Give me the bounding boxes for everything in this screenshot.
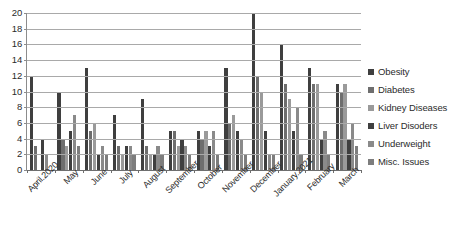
legend-swatch-icon: [368, 123, 374, 129]
legend-item-diabetes[interactable]: Diabetes: [368, 81, 461, 99]
gridline-10: [27, 92, 361, 93]
y-tick-label-2: 2: [17, 150, 22, 160]
legend-swatch-icon: [368, 87, 374, 93]
bar: [343, 84, 346, 170]
x-label-cell: October: [193, 172, 221, 234]
legend-label: Misc. Issues: [378, 157, 429, 167]
bar: [125, 146, 128, 170]
x-label-cell: September: [165, 172, 193, 234]
gridline-16: [27, 44, 361, 45]
bar: [169, 131, 172, 170]
y-tick-label-14: 14: [12, 55, 22, 65]
bar: [77, 146, 80, 170]
legend-label: Underweight: [378, 139, 430, 149]
y-tick-mark-2: [24, 154, 27, 155]
x-axis-tick-labels: April.2020MayJuneJulyAugustSeptemberOcto…: [26, 172, 360, 234]
x-label-cell: January.2021: [276, 172, 304, 234]
x-label-cell: July: [109, 172, 137, 234]
y-tick-label-18: 18: [12, 24, 22, 34]
bar: [129, 146, 132, 170]
legend-item-misc-issues[interactable]: Misc. Issues: [368, 153, 461, 171]
legend-item-liver-disoders[interactable]: Liver Disoders: [368, 117, 461, 135]
y-tick-mark-8: [24, 107, 27, 108]
plot-wrapper: 20181614121086420 April.2020MayJuneJulyA…: [0, 0, 368, 239]
y-tick-mark-16: [24, 44, 27, 45]
bar: [177, 146, 180, 170]
gridline-8: [27, 107, 361, 108]
gridline-4: [27, 139, 361, 140]
x-label-cell: November: [221, 172, 249, 234]
bar: [228, 123, 231, 170]
bar: [141, 99, 144, 170]
bar: [145, 146, 148, 170]
y-tick-mark-18: [24, 29, 27, 30]
chart-legend: ObesityDiabetesKidney DiseasesLiver Diso…: [368, 63, 461, 181]
legend-swatch-icon: [368, 69, 374, 75]
bar: [57, 92, 60, 171]
gridline-20: [27, 13, 361, 14]
bar: [149, 154, 152, 170]
gridline-6: [27, 123, 361, 124]
bar: [340, 92, 343, 171]
y-tick-mark-6: [24, 123, 27, 124]
bar: [69, 131, 72, 170]
bar: [351, 123, 354, 170]
bar: [93, 123, 96, 170]
y-tick-mark-12: [24, 76, 27, 77]
y-tick-mark-4: [24, 139, 27, 140]
y-tick-label-6: 6: [17, 118, 22, 128]
legend-swatch-icon: [368, 159, 374, 165]
y-tick-mark-14: [24, 60, 27, 61]
legend-item-kidney-diseases[interactable]: Kidney Diseases: [368, 99, 461, 117]
x-label-cell: March: [332, 172, 360, 234]
bar: [260, 92, 263, 171]
legend-label: Diabetes: [378, 85, 415, 95]
x-label-cell: December: [249, 172, 277, 234]
gridline-18: [27, 29, 361, 30]
bar: [65, 146, 68, 170]
bar: [236, 131, 239, 170]
y-axis-tick-labels: 20181614121086420: [0, 13, 22, 170]
bar: [288, 99, 291, 170]
bar: [173, 131, 176, 170]
bar: [204, 131, 207, 170]
bar: [89, 131, 92, 170]
gridline-2: [27, 154, 361, 155]
legend-label: Obesity: [378, 67, 410, 77]
y-tick-label-12: 12: [12, 71, 22, 81]
x-label-cell: February: [304, 172, 332, 234]
legend-item-obesity[interactable]: Obesity: [368, 63, 461, 81]
legend-swatch-icon: [368, 141, 374, 147]
bar-chart: 20181614121086420 April.2020MayJuneJulyA…: [0, 0, 461, 239]
gridline-14: [27, 60, 361, 61]
y-tick-label-0: 0: [17, 165, 22, 175]
y-tick-mark-20: [24, 13, 27, 14]
plot-area: [26, 13, 361, 171]
bar: [292, 131, 295, 170]
bar: [117, 146, 120, 170]
legend-item-underweight[interactable]: Underweight: [368, 135, 461, 153]
bar: [264, 131, 267, 170]
y-tick-label-10: 10: [12, 87, 22, 97]
bar: [105, 154, 108, 170]
legend-label: Kidney Diseases: [378, 103, 447, 113]
y-tick-mark-10: [24, 92, 27, 93]
bar: [132, 154, 135, 170]
y-tick-label-8: 8: [17, 102, 22, 112]
x-tick-label-july: July: [118, 169, 135, 186]
x-label-cell: May: [54, 172, 82, 234]
bar: [316, 84, 319, 170]
legend-label: Liver Disoders: [378, 121, 437, 131]
y-tick-label-4: 4: [17, 134, 22, 144]
bar: [121, 154, 124, 170]
bar: [34, 146, 37, 170]
x-label-cell: April.2020: [26, 172, 54, 234]
x-label-cell: June: [82, 172, 110, 234]
legend-swatch-icon: [368, 105, 374, 111]
x-label-cell: August: [137, 172, 165, 234]
bar: [284, 84, 287, 170]
bar: [208, 146, 211, 170]
y-tick-label-16: 16: [12, 40, 22, 50]
y-tick-label-20: 20: [12, 8, 22, 18]
bar: [336, 84, 339, 170]
